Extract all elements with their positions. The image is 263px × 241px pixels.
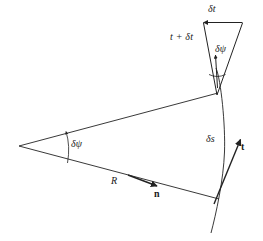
triangle-right-side xyxy=(217,23,243,95)
triangle-left-side xyxy=(204,23,218,95)
delta-psi-arc-top xyxy=(209,75,226,77)
label-radius-r: R xyxy=(111,176,117,186)
label-tangent-vector: t xyxy=(241,142,245,152)
curvature-diagram-svg xyxy=(0,0,263,241)
upper-radius-line xyxy=(19,93,218,146)
label-normal-vector: n xyxy=(154,189,160,199)
tangent-vector-arrow xyxy=(214,140,241,205)
normal-vector-arrow xyxy=(128,175,157,186)
label-delta-t: δt xyxy=(208,4,216,14)
label-delta-s: δs xyxy=(206,134,215,144)
diagram-canvas: δt t + δt δψ δψ δs t n R xyxy=(0,0,263,241)
label-t-plus-delta-t: t + δt xyxy=(170,32,193,42)
label-delta-psi-top: δψ xyxy=(215,44,226,54)
label-delta-psi-main: δψ xyxy=(71,139,82,149)
lower-radius-line xyxy=(19,146,219,199)
